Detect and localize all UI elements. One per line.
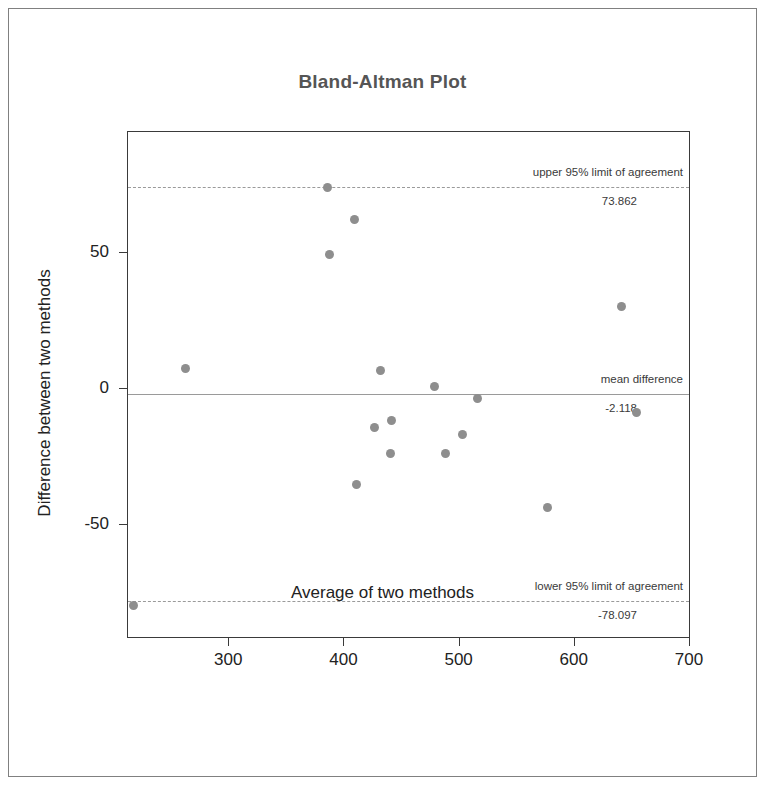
data-point [376, 366, 385, 375]
x-axis-tick [228, 637, 229, 646]
x-axis-tick-label: 400 [329, 650, 357, 670]
data-point [370, 423, 379, 432]
y-axis-tick [119, 388, 128, 389]
data-point [386, 449, 395, 458]
x-axis-tick-label: 600 [560, 650, 588, 670]
plot-area: 300400500600700500-50upper 95% limit of … [127, 131, 690, 638]
y-axis-tick [119, 524, 128, 525]
data-point [632, 408, 641, 417]
x-axis-tick-label: 300 [214, 650, 242, 670]
x-axis-tick [689, 637, 690, 646]
x-axis-label: Average of two methods [9, 583, 756, 603]
data-point [543, 503, 552, 512]
x-axis-tick-label: 500 [444, 650, 472, 670]
y-axis-tick [119, 252, 128, 253]
reference-line-mean-difference [128, 394, 689, 395]
x-axis-tick [459, 637, 460, 646]
data-point [458, 430, 467, 439]
data-point [473, 394, 482, 403]
data-point [617, 302, 626, 311]
x-axis-tick-label: 700 [675, 650, 703, 670]
data-point [325, 250, 334, 259]
x-axis-tick [343, 637, 344, 646]
y-axis-tick-label: 50 [90, 242, 109, 262]
data-point [430, 382, 439, 391]
page-title: Bland-Altman Plot [9, 71, 756, 93]
y-axis-label: Difference between two methods [35, 269, 55, 516]
data-point [352, 480, 361, 489]
reference-label-upper-limit: upper 95% limit of agreement [533, 166, 683, 178]
data-point [441, 449, 450, 458]
reference-line-upper-limit [128, 187, 689, 188]
reference-value-upper-limit: 73.862 [602, 195, 637, 207]
data-point [181, 364, 190, 373]
y-axis-tick-label: 0 [100, 378, 109, 398]
y-axis-tick-label: -50 [84, 514, 109, 534]
reference-label-mean-difference: mean difference [601, 373, 683, 385]
data-point [350, 215, 359, 224]
reference-value-lower-limit: -78.097 [598, 609, 637, 621]
figure-card: Bland-Altman Plot 300400500600700500-50u… [8, 8, 757, 777]
data-point [323, 183, 332, 192]
data-point [387, 416, 396, 425]
x-axis-tick [574, 637, 575, 646]
